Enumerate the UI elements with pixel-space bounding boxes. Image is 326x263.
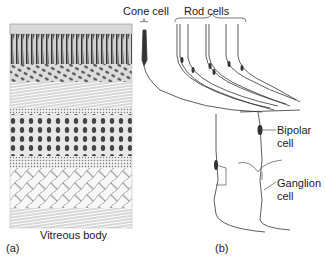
- retina-figure: Cone cell Rod cells Bipolar cell Ganglio…: [0, 0, 326, 263]
- panel-a-label: (a): [6, 242, 19, 254]
- rod-cells-label: Rod cells: [184, 5, 229, 17]
- neuron-schematic: [140, 14, 300, 232]
- ganglion-cell-label-line2: cell: [277, 190, 294, 202]
- histology-panel: [10, 24, 132, 228]
- cone-cell-label: Cone cell: [123, 5, 169, 17]
- vitreous-body-caption: Vitreous body: [40, 229, 107, 241]
- panel-b-label: (b): [215, 242, 228, 254]
- bipolar-cell-label-line2: cell: [277, 137, 294, 149]
- bipolar-cell-label-line1: Bipolar: [277, 124, 311, 136]
- ganglion-cell-label-line1: Ganglion: [277, 177, 321, 189]
